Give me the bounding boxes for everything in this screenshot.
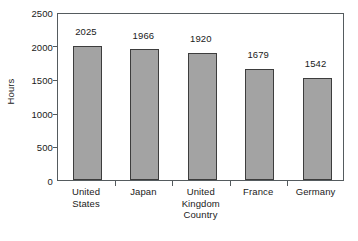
x-tick-label-line: Germany [287,186,345,198]
value-label-united-kingdom: 1920 [172,33,230,44]
value-label-france: 1679 [229,49,287,60]
x-tick-label-germany: Germany [287,186,345,198]
bar-united-kingdom [188,53,217,180]
y-tick-label-500: 500 [37,142,53,153]
value-label-japan: 1966 [114,30,172,41]
x-tick-label-united-states: United States [57,186,115,209]
x-tick-label-line: United [57,186,115,198]
x-tick-label-japan: Japan [114,186,172,198]
y-tick-label-1000: 1000 [31,109,53,120]
bar-germany [303,78,332,180]
y-tick-label-1500: 1500 [31,75,53,86]
y-tick-label-2500: 2500 [31,8,53,19]
x-tick-label-line: France [229,186,287,198]
x-tick-label-line: States [57,198,115,210]
x-tick-label-line: Kingdom [172,198,230,210]
value-label-united-states: 2025 [57,26,115,37]
bar-france [245,69,274,180]
bar-japan [130,49,159,180]
y-tick-label-0: 0 [48,176,53,187]
x-tick-label-line: United [172,186,230,198]
value-label-germany: 1542 [287,58,345,69]
y-tick-label-2000: 2000 [31,42,53,53]
bar-united-states [73,46,102,180]
x-axis-title: Country [57,209,344,220]
y-axis-title: Hours [5,62,16,122]
x-tick-label-line: Japan [114,186,172,198]
x-tick-label-france: France [229,186,287,198]
x-tick-label-united-kingdom: United Kingdom [172,186,230,209]
bar-chart: 2500 2000 1500 1000 500 0 Hours 2025 196… [0,0,358,241]
